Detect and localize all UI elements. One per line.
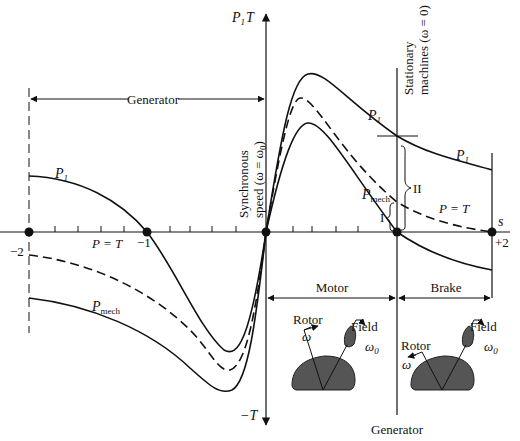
slip-power-diagram: P1T −T s −2 −1 +2 Generator Motor Brake … [0, 0, 520, 441]
brace-i-label: I [380, 210, 384, 225]
pmech-label-right: Pmech [361, 187, 391, 204]
generator-bottom-label: Generator [371, 422, 424, 437]
synchronous-speed-label: Synchronous speed (ω = ω0) [236, 141, 268, 218]
brake-rotor-label: Rotor [401, 338, 431, 353]
motor-field-label: Field [351, 319, 378, 334]
y-axis-top-label: P1T [231, 10, 255, 27]
brake-region-label: Brake [430, 280, 461, 295]
tick-label-minus2: −2 [10, 244, 24, 259]
brake-inset: Rotor ω Field ω0 [401, 319, 498, 390]
brake-omega-label: ω [402, 357, 411, 372]
p-equals-t-label-left: P = T [91, 236, 123, 251]
brace-ii [401, 146, 411, 230]
s-axis-ticks [55, 226, 358, 232]
motor-region-label: Motor [316, 280, 349, 295]
tick-label-plus2: +2 [495, 235, 509, 250]
pmech-label-left: Pmech [91, 299, 121, 316]
svg-text:speed (ω = ω0): speed (ω = ω0) [251, 141, 268, 218]
svg-text:Synchronous: Synchronous [236, 150, 251, 218]
tick-label-minus1: −1 [137, 235, 151, 250]
brake-field-label: Field [470, 319, 497, 334]
rotor-blob-icon [292, 356, 355, 390]
motor-omega-label: ω [302, 329, 311, 344]
svg-text:machines (ω = 0): machines (ω = 0) [416, 5, 431, 95]
rotor-blob-icon [411, 356, 474, 390]
p1-label-left: P1 [54, 166, 68, 183]
motor-omega0-label: ω0 [365, 339, 379, 356]
brace-ii-label: II [413, 181, 422, 196]
brake-omega0-label: ω0 [484, 339, 498, 356]
p-equals-t-curve [29, 98, 492, 370]
stationary-machines-label: Stationary machines (ω = 0) [401, 5, 431, 95]
y-axis-bottom-label: −T [240, 408, 258, 423]
p-equals-t-label-right: P = T [438, 201, 470, 216]
svg-text:Stationary: Stationary [401, 41, 416, 95]
s-axis-label: s [498, 214, 504, 229]
p1-label-right-a: P1 [367, 108, 381, 125]
generator-region-label: Generator [127, 92, 180, 107]
motor-inset: Rotor ω Field ω0 [292, 312, 379, 390]
motor-rotor-label: Rotor [293, 312, 323, 327]
p1-label-right-b: P1 [455, 148, 469, 165]
